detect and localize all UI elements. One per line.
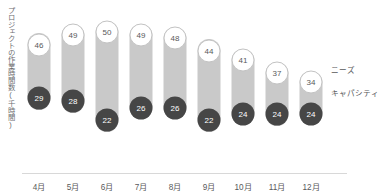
needs-marker: 48: [164, 27, 187, 50]
x-axis-tick-label: 4月: [22, 180, 56, 192]
capacity-marker: 24: [300, 103, 323, 126]
chart-column: 2441: [226, 0, 260, 175]
x-axis-tick-label: 6月: [90, 180, 124, 192]
plot-area: 294628492250264926482244244124372434: [22, 0, 328, 175]
capacity-marker: 22: [198, 109, 221, 132]
chart-column: 2649: [124, 0, 158, 175]
chart-column: 2434: [294, 0, 328, 175]
chart-column: 2946: [22, 0, 56, 175]
x-axis-tick-label: 11月: [260, 180, 294, 192]
chart-column: 2849: [56, 0, 90, 175]
capacity-marker: 24: [266, 103, 289, 126]
legend-item-needs: ニーズ: [331, 66, 355, 76]
needs-marker: 44: [198, 39, 221, 62]
needs-marker: 49: [130, 24, 153, 47]
chart-column: 2648: [158, 0, 192, 175]
needs-marker: 34: [300, 71, 323, 94]
capacity-marker: 26: [164, 96, 187, 119]
needs-marker: 41: [232, 49, 255, 72]
needs-marker: 50: [96, 21, 119, 44]
chart-column: 2437: [260, 0, 294, 175]
x-axis-tick-label: 9月: [192, 180, 226, 192]
capacity-marker: 28: [62, 90, 85, 113]
x-axis-tick-label: 5月: [56, 180, 90, 192]
x-axis-labels: 4月5月6月7月8月9月10月11月12月: [22, 180, 328, 194]
x-axis-tick-label: 10月: [226, 180, 260, 192]
needs-marker: 49: [62, 24, 85, 47]
legend-item-capacity: キャパシティ: [331, 89, 379, 99]
capacity-marker: 26: [130, 96, 153, 119]
x-axis-tick-label: 12月: [294, 180, 328, 192]
work-hours-dumbbell-chart: プロジェクトの作業時間数(千時間) 2946284922502649264822…: [0, 0, 382, 196]
capacity-marker: 22: [96, 109, 119, 132]
x-axis-tick-label: 7月: [124, 180, 158, 192]
needs-marker: 46: [28, 33, 51, 56]
x-axis-line: [22, 173, 347, 174]
capacity-marker: 24: [232, 103, 255, 126]
y-axis-title: プロジェクトの作業時間数(千時間): [1, 6, 15, 166]
x-axis-tick-label: 8月: [158, 180, 192, 192]
needs-marker: 37: [266, 62, 289, 85]
chart-column: 2244: [192, 0, 226, 175]
capacity-marker: 29: [28, 87, 51, 110]
chart-column: 2250: [90, 0, 124, 175]
